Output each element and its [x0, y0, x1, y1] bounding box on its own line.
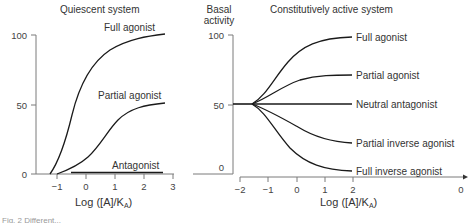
right-x-end-label: 0 [458, 184, 463, 195]
label-partial-agonist-right: Partial agonist [356, 70, 420, 81]
right-x-label: 1 [322, 184, 327, 195]
left-x-axis-title: Log ([A]/KA) [75, 196, 132, 209]
right-x-label: 0 [294, 184, 299, 195]
basal-activity-label-line1: Basal [206, 4, 231, 15]
right-y-label-50: 50 [213, 100, 224, 111]
full-agonist-curve-right [252, 37, 352, 104]
left-x-label: 3 [170, 181, 175, 192]
label-partial-inverse-agonist: Partial inverse agonist [356, 138, 455, 149]
full-agonist-curve [50, 34, 165, 174]
left-panel-title: Quiescent system [60, 4, 139, 15]
label-antagonist: Antagonist [112, 160, 159, 171]
label-full-inverse-agonist: Full inverse agonist [356, 166, 442, 177]
partial-inverse-agonist-curve [252, 104, 352, 143]
x-axis-arrow-icon [463, 175, 468, 180]
left-x-label: −1 [52, 181, 63, 192]
right-x-label: −1 [263, 184, 274, 195]
right-panel: Basal activity Constitutively active sys… [193, 4, 468, 209]
label-partial-agonist-left: Partial agonist [98, 90, 162, 101]
left-x-label: 2 [141, 181, 146, 192]
figure-caption: Fig. 2 Different... [2, 216, 61, 223]
left-y-label-100: 100 [11, 30, 27, 41]
right-x-label: 2 [350, 184, 355, 195]
left-panel: Quiescent system 100 50 0 −1 0 1 2 3 Log… [11, 4, 176, 209]
right-x-axis-title: Log ([A]/KA) [320, 196, 377, 209]
figure-canvas: Quiescent system 100 50 0 −1 0 1 2 3 Log… [0, 0, 471, 223]
right-y-label-100: 100 [208, 30, 224, 41]
label-full-agonist-right: Full agonist [356, 32, 407, 43]
left-y-label-0: 0 [22, 169, 27, 180]
left-y-label-50: 50 [16, 100, 27, 111]
full-inverse-agonist-curve [252, 104, 352, 171]
label-neutral-antagonist: Neutral antagonist [356, 99, 437, 110]
basal-activity-label-line2: activity [204, 15, 235, 26]
right-panel-title: Constitutively active system [270, 4, 393, 15]
left-x-label: 0 [83, 181, 88, 192]
left-x-label: 1 [112, 181, 117, 192]
label-full-agonist-left: Full agonist [104, 22, 155, 33]
right-y-label-0: 0 [219, 162, 224, 173]
right-x-label: −2 [235, 184, 246, 195]
